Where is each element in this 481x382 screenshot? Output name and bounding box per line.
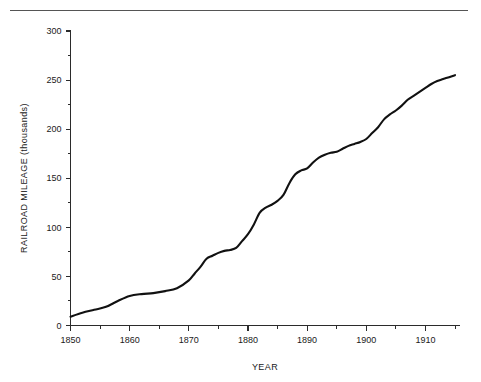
y-tick-label: 100 <box>46 223 61 233</box>
y-axis-title: RAILROAD MILEAGE (thousands) <box>19 103 29 253</box>
x-tick-label: 1850 <box>60 335 80 345</box>
x-axis-major-ticks <box>71 326 426 331</box>
x-tick-label: 1890 <box>297 335 317 345</box>
x-tick-label: 1870 <box>179 335 199 345</box>
data-series-line <box>71 75 456 316</box>
x-tick-label: 1900 <box>356 335 376 345</box>
x-tick-label: 1860 <box>120 335 140 345</box>
x-axis-title: YEAR <box>252 362 278 372</box>
y-tick-label: 150 <box>46 173 61 183</box>
line-chart: 050100150200250300 185018601870188018901… <box>0 0 481 382</box>
chart-figure: 050100150200250300 185018601870188018901… <box>0 0 481 382</box>
y-axis-tick-labels: 050100150200250300 <box>46 26 61 331</box>
x-tick-label: 1880 <box>238 335 258 345</box>
y-tick-label: 50 <box>51 272 61 282</box>
y-tick-label: 200 <box>46 124 61 134</box>
x-axis-tick-labels: 1850186018701880189019001910 <box>60 335 435 345</box>
y-tick-label: 300 <box>46 26 61 36</box>
x-tick-label: 1910 <box>415 335 435 345</box>
y-axis-major-ticks <box>66 31 71 326</box>
y-tick-label: 250 <box>46 75 61 85</box>
y-tick-label: 0 <box>56 321 61 331</box>
